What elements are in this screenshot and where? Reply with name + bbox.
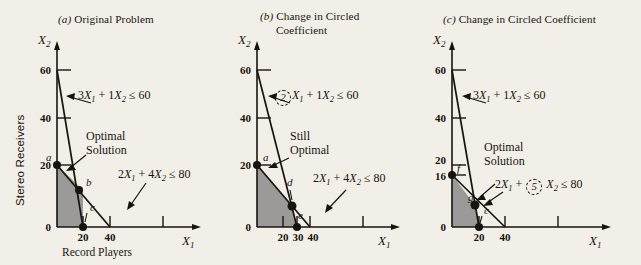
panel-b-optimal-annotation: Still Optimal xyxy=(290,130,329,157)
panel-c-ylabel-0: 0 xyxy=(441,221,447,233)
panel-a-ylabel-40: 40 xyxy=(40,112,52,124)
panel-c-x-axis-arrow xyxy=(602,224,611,230)
panel-c-circled-coefficient: 5 xyxy=(526,179,542,195)
panel-b-ylabel-40: 40 xyxy=(240,112,252,124)
panel-b-vertex-d-label: d xyxy=(287,176,293,188)
panel-b-y-axis-variable: X2 xyxy=(237,32,251,49)
panel-a-vertex-b xyxy=(75,186,83,194)
panel-a-ylabel-0: 0 xyxy=(46,221,52,233)
panel-a-constraint1-label: 3X1 + 1X2 ≤ 60 xyxy=(78,89,150,106)
panel-c-constraint1-arrowhead xyxy=(462,93,471,100)
panel-a-xlabel-40: 40 xyxy=(105,231,117,243)
panel-c-optimal-annotation: Optimal Solution xyxy=(484,141,525,168)
panel-c-constraint1-label: 3X1 + 1X2 ≤ 60 xyxy=(473,89,545,106)
panel-b-ylabel-20: 20 xyxy=(240,159,252,171)
panel-c-plot: 60 40 20 16 0 20 40 X2 X1 f g c xyxy=(420,0,641,265)
panel-c-vertex-g-label: g xyxy=(468,191,474,203)
panel-a-optimal-line1: Optimal xyxy=(86,130,127,144)
panel-c-ylabel-20: 20 xyxy=(435,154,447,166)
panel-b-y-axis-arrow xyxy=(254,41,260,50)
panel-a-constraint2-arrowhead xyxy=(127,201,135,210)
panel-a-y-axis-arrow xyxy=(54,41,60,50)
panel-a-ylabel-60: 60 xyxy=(40,64,52,76)
panel-b-xlabel-20: 20 xyxy=(278,231,290,243)
panel-a-feasible-region xyxy=(57,165,83,227)
panel-c: (c) Change in Circled Coefficient 60 40 … xyxy=(420,0,641,265)
panel-c-optimal-line2: Solution xyxy=(484,155,525,169)
panel-b-vertex-e-label: e xyxy=(298,209,303,221)
panel-b-optimal-line1: Still xyxy=(290,130,329,144)
panel-c-ylabel-16: 16 xyxy=(435,170,447,182)
panel-c-constraint2-label: 2X1 + 5 X2 ≤ 80 xyxy=(495,178,582,195)
panel-a-vertex-c-label: c xyxy=(90,201,95,213)
panel-c-y-axis-arrow xyxy=(449,41,455,50)
panel-c-xlabel-20: 20 xyxy=(474,231,486,243)
panel-b-circled-coefficient: 2 xyxy=(275,90,291,106)
panel-b-optimal-line2: Optimal xyxy=(290,144,329,158)
panel-b-vertex-a xyxy=(253,161,261,169)
panel-c-xlabel-40: 40 xyxy=(500,231,512,243)
panel-b-vertex-a-label: a xyxy=(263,151,269,163)
panel-a: (a) Original Problem Stereo Receivers Re… xyxy=(0,0,215,265)
panel-c-vertex-f xyxy=(448,171,456,179)
panel-c-ylabel-40: 40 xyxy=(435,112,447,124)
panel-a-x-axis-variable: X1 xyxy=(181,233,194,250)
panel-b-xlabel-30: 30 xyxy=(293,231,305,243)
panel-b-constraint2-arrow xyxy=(328,190,346,209)
panel-c-vertex-c-leader xyxy=(480,216,482,223)
panel-c-x-axis-variable: X1 xyxy=(588,233,601,250)
panel-b: (b) Change in Circled Coefficient 60 40 … xyxy=(212,0,424,265)
panel-a-vertex-a xyxy=(53,161,61,169)
panel-a-y-axis-variable: X2 xyxy=(37,32,51,49)
figure-sensitivity-analysis: (a) Original Problem Stereo Receivers Re… xyxy=(0,0,641,265)
panel-a-xlabel-20: 20 xyxy=(78,231,90,243)
panel-b-x-axis-arrow xyxy=(391,224,400,230)
panel-a-constraint2-arrow xyxy=(130,183,146,206)
panel-c-optimal-line1: Optimal xyxy=(484,141,525,155)
panel-a-optimal-line2: Solution xyxy=(86,144,127,158)
panel-c-annotation-arrowhead xyxy=(476,194,486,200)
panel-b-vertex-e xyxy=(293,223,301,231)
panel-c-vertex-f-label: f xyxy=(457,162,462,174)
panel-a-vertex-b-label: b xyxy=(86,176,92,188)
panel-a-constraint2-label: 2X1 + 4X2 ≤ 80 xyxy=(118,168,190,185)
panel-b-x-axis-variable: X1 xyxy=(377,233,390,250)
panel-c-ylabel-60: 60 xyxy=(435,64,447,76)
panel-b-ylabel-0: 0 xyxy=(246,221,252,233)
panel-b-constraint1-label: 2X1 + 1X2 ≤ 60 xyxy=(274,89,358,106)
panel-b-constraint2-label: 2X1 + 4X2 ≤ 80 xyxy=(313,172,385,189)
panel-a-vertex-c xyxy=(79,223,87,231)
panel-a-optimal-annotation: Optimal Solution xyxy=(86,130,127,157)
panel-a-constraint1-arrowhead xyxy=(66,93,75,100)
panel-c-y-axis-variable: X2 xyxy=(432,32,446,49)
panel-c-vertex-c xyxy=(475,223,483,231)
panel-a-vertex-a-label: a xyxy=(46,151,52,163)
panel-a-vertex-c-leader xyxy=(85,213,87,222)
panel-a-x-axis-arrow xyxy=(192,224,201,230)
panel-b-xlabel-40: 40 xyxy=(308,231,320,243)
panel-b-vertex-d xyxy=(288,202,297,211)
panel-b-ylabel-60: 60 xyxy=(240,64,252,76)
